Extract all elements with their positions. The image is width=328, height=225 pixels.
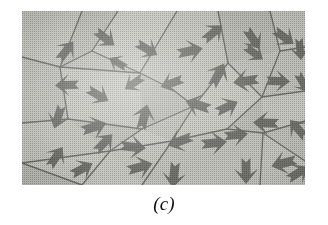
figure-caption: (c)	[0, 192, 328, 216]
figure-root: (c)	[0, 0, 328, 225]
grain-structure-diagram	[22, 11, 305, 185]
micrograph-panel	[22, 11, 305, 185]
